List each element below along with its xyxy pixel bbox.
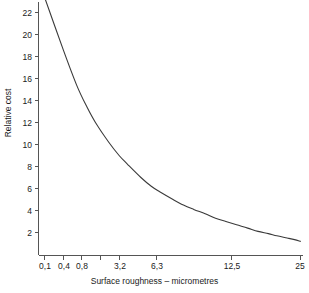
y-tick-label-22: 22	[8, 8, 32, 17]
x-tick-label-0-1: 0,1	[39, 262, 51, 271]
x-tick-label-0-4: 0,4	[58, 262, 70, 271]
x-tick-label-6-3: 6,3	[151, 262, 163, 271]
x-tick-label-12-5: 12,5	[224, 262, 241, 271]
x-tick-label-0-8: 0,8	[76, 262, 88, 271]
y-tick-label-2: 2	[8, 228, 32, 237]
y-tick-marks	[35, 13, 39, 233]
y-tick-label-20: 20	[8, 30, 32, 39]
y-tick-label-8: 8	[8, 162, 32, 171]
cost-vs-roughness-chart: 22 20 18 16 14 12 10 8 6 4 2 0,1 0,4 0,8…	[0, 0, 309, 293]
y-tick-label-18: 18	[8, 52, 32, 61]
x-tick-label-25: 25	[295, 262, 304, 271]
x-axis-title: Surface roughness – micrometres	[0, 276, 309, 286]
x-tick-label-3-2: 3,2	[114, 262, 126, 271]
x-tick-marks	[45, 256, 301, 260]
y-tick-label-6: 6	[8, 184, 32, 193]
relative-cost-curve	[45, 0, 301, 241]
y-axis-title: Relative cost	[3, 78, 13, 148]
plot-area	[0, 0, 309, 293]
y-tick-label-4: 4	[8, 206, 32, 215]
